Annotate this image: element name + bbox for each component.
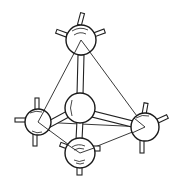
atom-center	[65, 93, 95, 123]
edges-overlay	[38, 40, 145, 153]
bond-center-top	[77, 55, 84, 95]
molecule-drawing	[0, 0, 172, 187]
tetrahedral-molecule-diagram	[0, 0, 172, 187]
tetrahedron-edges	[38, 40, 145, 153]
